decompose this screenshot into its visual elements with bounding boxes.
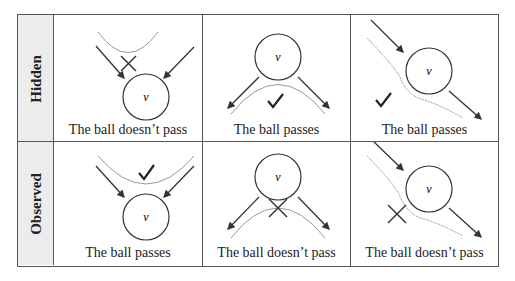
node-label: v: [143, 90, 149, 104]
ball-path: [98, 32, 158, 53]
arrow-icon: [371, 142, 403, 170]
row-label-text: Hidden: [27, 55, 44, 103]
ball-path: [231, 208, 325, 238]
arrow-icon: [449, 91, 481, 119]
x-mark-icon: [388, 205, 406, 223]
node-label: v: [275, 170, 281, 184]
row-label-observed: Observed: [18, 142, 54, 265]
cell-observed-converging: v The ball passes: [54, 142, 202, 265]
node-label: v: [275, 50, 281, 64]
check-mark-icon: [376, 93, 391, 106]
caption: The ball passes: [54, 245, 202, 261]
cell-hidden-chain: v The ball passes: [351, 15, 498, 141]
caption: The ball passes: [203, 122, 350, 138]
arrow-icon: [164, 47, 194, 78]
node-label: v: [426, 64, 432, 78]
ball-path: [98, 156, 194, 184]
node-label: v: [143, 210, 149, 224]
arrow-icon: [298, 197, 329, 229]
check-mark-icon: [139, 165, 154, 179]
caption: The ball passes: [351, 122, 498, 138]
cell-hidden-diverging: v The ball passes: [203, 15, 350, 141]
caption: The ball doesn’t pass: [54, 122, 202, 138]
x-mark-icon: [269, 199, 287, 217]
caption: The ball doesn’t pass: [351, 245, 498, 261]
arrow-icon: [96, 166, 124, 197]
cell-observed-chain: v The ball doesn’t pass: [351, 142, 498, 265]
cell-hidden-converging: v The ball doesn’t pass: [54, 15, 202, 141]
arrow-icon: [449, 208, 481, 237]
x-mark-icon: [121, 56, 136, 71]
node-label: v: [426, 182, 432, 196]
row-label-hidden: Hidden: [18, 15, 54, 142]
row-label-text: Observed: [27, 173, 44, 235]
check-mark-icon: [268, 94, 283, 107]
cell-observed-diverging: v The ball doesn’t pass: [203, 142, 350, 265]
caption: The ball doesn’t pass: [203, 245, 350, 261]
bayes-ball-table: Hidden Observed v The ball doesn’t pass …: [17, 14, 499, 267]
